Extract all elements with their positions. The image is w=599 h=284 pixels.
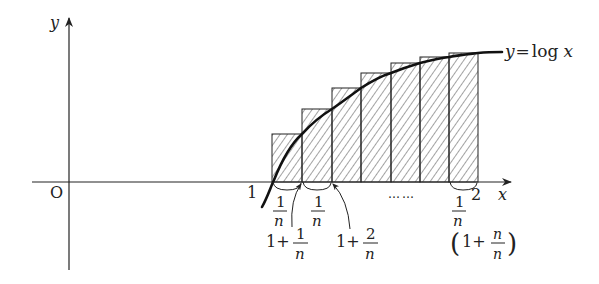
svg-text:1+: 1+ [462,232,486,251]
point-label-1-plus-1-over-n: 1+ 1 n [266,225,308,263]
interval-braces [273,182,477,190]
tick-label-2: 2 [471,185,481,204]
rectangle-5 [391,63,420,182]
svg-text:n: n [312,212,322,230]
interval-width-2: 1 n [311,193,325,230]
svg-text:n: n [493,226,502,242]
svg-text:n: n [295,245,305,263]
rectangle-3 [332,88,361,182]
interval-width-1: 1 n [273,193,287,230]
point-label-1-plus-2-over-n: 1+ 2 n [336,225,378,263]
upper-sum-rectangles [272,53,478,182]
riemann-sum-diagram: y=logx y x O 1 2 …… 1 n 1 n 1 n 1+ 1 n [0,0,599,284]
svg-text:1+: 1+ [266,232,290,251]
svg-text:1: 1 [314,193,324,211]
y-axis-label: y [49,13,60,32]
ellipsis: …… [388,187,416,201]
svg-text:1: 1 [296,225,306,243]
svg-text:1: 1 [276,193,286,211]
point-label-1-plus-n-over-n: ( 1+ n n ) [450,226,517,262]
svg-text:1+: 1+ [336,232,360,251]
curve-label: y=logx [504,41,573,61]
svg-text:(: ( [450,228,460,258]
x-axis-label: x [498,185,507,204]
svg-text:n: n [274,212,284,230]
svg-text:): ) [507,228,517,258]
rectangle-6 [420,57,449,182]
svg-text:n: n [365,245,375,263]
tick-label-1: 1 [247,183,257,202]
svg-text:n: n [493,246,502,262]
svg-text:2: 2 [366,225,376,243]
rectangle-7 [449,53,478,182]
svg-text:1: 1 [455,193,465,211]
origin-label: O [50,183,63,202]
interval-width-last: 1 n [452,193,466,230]
rectangle-4 [361,73,391,182]
